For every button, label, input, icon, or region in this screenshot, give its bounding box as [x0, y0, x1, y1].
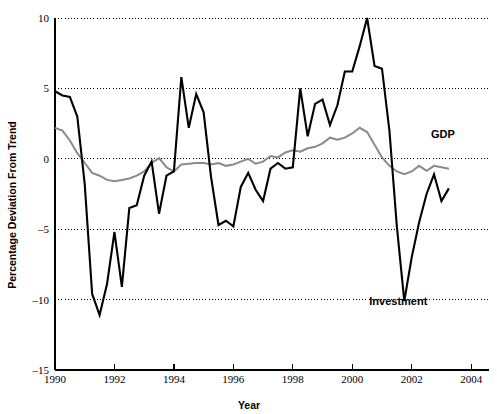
x-axis-title: Year [238, 399, 260, 411]
y-tick-label: 10 [38, 12, 50, 24]
y-tick-label: –10 [32, 294, 50, 306]
line-chart: 19901992199419961998200020022004 –15–10–… [0, 0, 497, 414]
y-tick-label: 5 [44, 82, 50, 94]
x-tick-label: 2000 [341, 373, 364, 385]
y-tick-label: –15 [32, 364, 50, 376]
series-label-investment: Investment [369, 295, 427, 307]
chart-container: 19901992199419961998200020022004 –15–10–… [0, 0, 497, 414]
x-tick-label: 2002 [401, 373, 423, 385]
svg-text:Year: Year [238, 399, 260, 411]
svg-text:Percentage Deviation From Tren: Percentage Deviation From Trend [6, 121, 18, 288]
y-tick-label: –5 [37, 223, 50, 235]
x-tick-label: 1992 [103, 373, 125, 385]
x-tick-label: 1994 [163, 373, 186, 385]
y-tick-label: 0 [44, 153, 50, 165]
y-axis-title: Percentage Deviation From Trend [6, 121, 18, 288]
x-tick-label: 2004 [460, 373, 483, 385]
x-tick-label: 1998 [282, 373, 305, 385]
x-tick-label: 1996 [222, 373, 245, 385]
series-label-gdp: GDP [431, 128, 455, 140]
